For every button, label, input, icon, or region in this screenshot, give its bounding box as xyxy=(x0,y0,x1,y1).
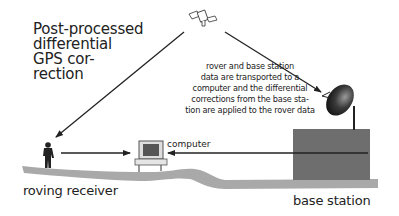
person-icon xyxy=(43,142,54,168)
roving-receiver-label: roving receiver xyxy=(23,183,118,198)
base-station-label: base station xyxy=(293,193,370,208)
dish-mast xyxy=(353,106,355,130)
base-station-building xyxy=(293,129,370,180)
note-line: computer and the differential xyxy=(170,83,330,94)
satellite-icon xyxy=(189,10,217,26)
note-line: rover and base station xyxy=(170,61,330,72)
computer-label: computer xyxy=(167,139,210,149)
computer-icon xyxy=(135,141,167,172)
diagram-title: Post-processed differential GPS cor- rec… xyxy=(33,22,183,82)
process-description: rover and base station data are transpor… xyxy=(170,61,330,116)
note-line: data are transported to a xyxy=(170,72,330,83)
note-line: tion are applied to the rover data xyxy=(170,105,330,116)
note-line: corrections from the base sta- xyxy=(170,94,330,105)
title-line: rection xyxy=(33,67,183,82)
